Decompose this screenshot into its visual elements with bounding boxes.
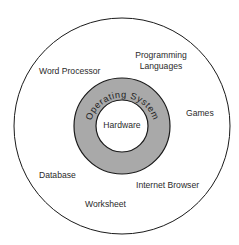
app-label-worksheet: Worksheet [85,199,127,209]
app-label-programming-languages-line2: Languages [140,61,183,71]
app-label-database: Database [39,170,76,180]
os-layers-diagram: Operating System Hardware Word Processor… [0,0,239,245]
app-label-word-processor: Word Processor [39,66,101,76]
hardware-label: Hardware [103,120,140,130]
app-label-internet-browser: Internet Browser [136,180,199,190]
app-label-programming-languages-line1: Programming [135,50,187,60]
app-label-games: Games [186,108,214,118]
